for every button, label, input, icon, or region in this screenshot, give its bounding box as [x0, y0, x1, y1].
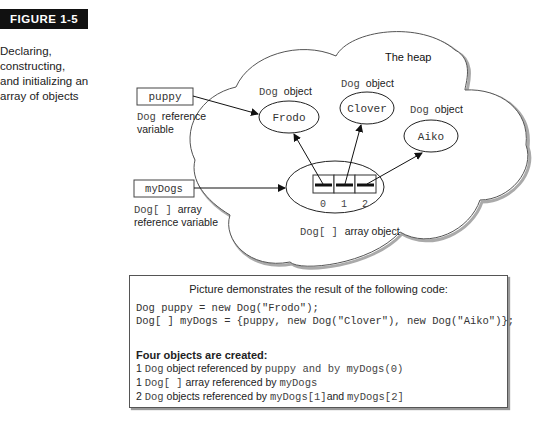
count: 1: [136, 362, 142, 374]
count: 2: [136, 390, 142, 402]
frodo-object-label: Dog object: [259, 85, 312, 98]
count: 1: [136, 376, 142, 388]
references: myDogs[1]: [270, 391, 327, 403]
references: myDogs[2]: [347, 391, 404, 403]
summary-line: 2 Dog objects referenced by myDogs[1]and…: [136, 390, 404, 404]
clover-object-label: Dog object: [341, 77, 394, 90]
references: puppy and by myDogs(0): [265, 363, 404, 375]
clover-value: Clover: [347, 103, 387, 115]
frodo-value: Frodo: [272, 112, 305, 124]
summary: Four objects are created: 1 Dog object r…: [136, 349, 404, 404]
summary-line: 1 Dog[ ] array referenced by myDogs: [136, 376, 404, 390]
array-object-label: Dog[ ] array object: [300, 225, 400, 238]
code-block: Dog puppy = new Dog("Frodo");Dog[ ] myDo…: [136, 302, 514, 328]
description: object referenced by: [164, 362, 265, 374]
code-explanation-box: Picture demonstrates the result of the f…: [129, 275, 508, 408]
aiko-value: Aiko: [418, 131, 444, 143]
puppy-type-label: Dog reference: [137, 110, 206, 123]
mydogs-type-label: Dog[ ] array: [134, 203, 202, 216]
summary-heading: Four objects are created:: [136, 349, 404, 362]
references: myDogs: [279, 377, 317, 389]
array-index-1: 1: [341, 199, 347, 210]
code-line: Dog[ ] myDogs = {puppy, new Dog("Clover"…: [136, 315, 514, 328]
summary-line: 1 Dog object referenced by puppy and by …: [136, 362, 404, 376]
puppy-variable-name: puppy: [148, 91, 181, 103]
code-box-title: Picture demonstrates the result of the f…: [130, 283, 507, 295]
aiko-object-label: Dog object: [410, 103, 463, 116]
mydogs-variable-name: myDogs: [145, 183, 183, 195]
type: Dog: [145, 363, 164, 375]
heap-label: The heap: [385, 51, 431, 63]
type: Dog: [145, 391, 164, 403]
mydogs-type-label-line2: reference variable: [134, 216, 218, 228]
array-index-2: 2: [362, 199, 368, 210]
code-line: Dog puppy = new Dog("Frodo");: [136, 302, 514, 315]
description: objects referenced by: [164, 390, 270, 402]
puppy-type-label-line2: variable: [137, 123, 174, 135]
array-index-0: 0: [320, 199, 326, 210]
description: array referenced by: [183, 376, 280, 388]
type: Dog[ ]: [145, 377, 183, 389]
description: and: [327, 390, 347, 402]
